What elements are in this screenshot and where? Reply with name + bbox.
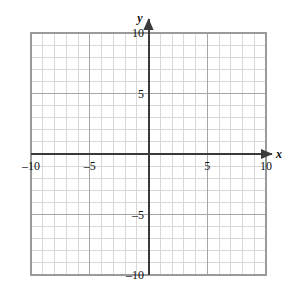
x-tick-label-neg10: –10: [21, 159, 40, 173]
coordinate-plane-figure: x y –10 –5 5 10 10 5 –5 –10: [0, 0, 300, 297]
x-tick-label-5: 5: [204, 159, 210, 173]
y-tick-label-neg10: –10: [125, 268, 144, 282]
y-tick-label-neg5: –5: [131, 208, 144, 222]
x-tick-label-10: 10: [260, 159, 272, 173]
y-tick-label-5: 5: [138, 87, 144, 101]
x-tick-label-neg5: –5: [83, 159, 96, 173]
coordinate-grid-svg: x y –10 –5 5 10 10 5 –5 –10: [0, 0, 300, 297]
y-axis-label: y: [135, 11, 143, 25]
x-axis-label: x: [275, 147, 282, 161]
y-tick-label-10: 10: [132, 26, 144, 40]
